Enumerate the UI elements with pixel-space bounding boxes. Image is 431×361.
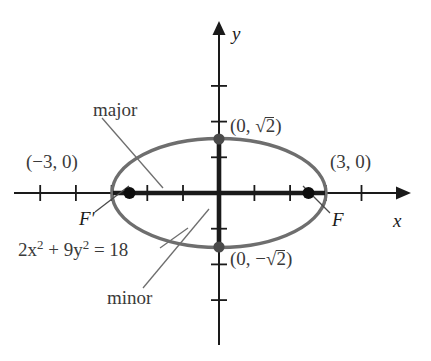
- equation-rhs: = 18: [89, 239, 128, 260]
- label-covertex-bottom: (0, −√2): [230, 249, 292, 268]
- label-focus-left: F′: [79, 209, 95, 228]
- equation-term-b: + 9y: [43, 239, 82, 260]
- point-focus-right: [303, 187, 315, 199]
- point-focus-left: [124, 187, 136, 199]
- graph-canvas: [0, 0, 431, 361]
- point-covertex-bottom: [213, 241, 224, 252]
- ellipse-figure: y x (−3, 0) (3, 0) (0, √2) (0, −√2) F′ F…: [0, 0, 431, 361]
- minor-callout-leader: [143, 209, 209, 288]
- y-axis-label: y: [232, 24, 240, 43]
- x-axis-label: x: [393, 211, 401, 230]
- label-minor-axis: minor: [107, 288, 152, 307]
- point-covertex-top: [213, 133, 224, 144]
- label-covertex-top: (0, √2): [230, 116, 282, 135]
- covertex-bottom-suffix: ): [286, 248, 292, 269]
- major-callout-leader: [102, 118, 163, 188]
- label-vertex-left: (−3, 0): [26, 152, 78, 171]
- label-vertex-right: (3, 0): [330, 152, 371, 171]
- sqrt-symbol-top: √2: [255, 116, 275, 135]
- label-major-axis: major: [93, 100, 137, 119]
- covertex-bottom-prefix: (0, −: [230, 248, 266, 269]
- label-focus-right: F: [332, 210, 344, 229]
- covertex-top-prefix: (0,: [230, 115, 255, 136]
- label-equation: 2x2 + 9y2 = 18: [18, 240, 128, 259]
- equation-term-a: 2x: [18, 239, 37, 260]
- sqrt-symbol-bottom: √2: [266, 249, 286, 268]
- x-axis-arrowhead: [396, 187, 411, 200]
- y-axis-arrowhead: [213, 21, 226, 35]
- covertex-top-suffix: ): [275, 115, 281, 136]
